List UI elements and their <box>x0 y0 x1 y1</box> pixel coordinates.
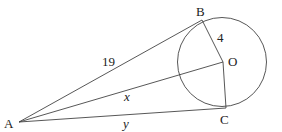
segment-label-ac: y <box>121 116 129 131</box>
segment-ao <box>19 62 223 122</box>
tangent-circle-diagram: A B O C 19 x y 4 <box>0 0 282 132</box>
point-label-c: C <box>220 112 229 127</box>
segment-oc <box>223 62 226 108</box>
segment-label-ao: x <box>123 89 130 104</box>
point-label-o: O <box>228 54 237 69</box>
segment-label-ab: 19 <box>102 54 115 69</box>
segment-ab <box>19 20 202 122</box>
point-label-b: B <box>196 4 205 19</box>
segment-label-bo: 4 <box>217 30 224 45</box>
point-label-a: A <box>4 116 14 131</box>
